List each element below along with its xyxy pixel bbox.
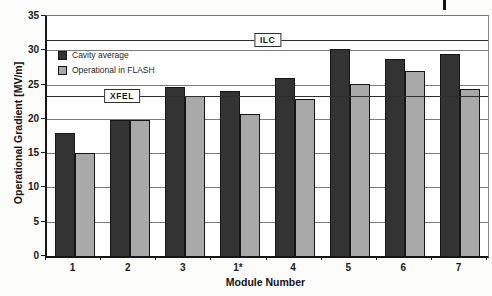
- y-tick-mark-10: [41, 186, 45, 187]
- bar-group-7: [433, 16, 488, 256]
- cavity-average-bar-3: [165, 87, 185, 256]
- operational-in-flash-bar-5: [350, 84, 370, 256]
- x-axis-title: Module Number: [45, 276, 486, 288]
- bar-group-1*: [212, 16, 267, 256]
- x-tick-mark-8: [486, 257, 487, 260]
- y-tick-mark-35: [41, 15, 45, 16]
- legend-item-operational-in-flash: Operational in FLASH: [58, 65, 155, 75]
- legend: Cavity average Operational in FLASH: [58, 50, 155, 75]
- y-tick-label-10: 10: [17, 181, 39, 192]
- x-tick-label-4: 4: [290, 262, 296, 273]
- plot-area: ILCXFEL Cavity average Operational in FL…: [45, 15, 489, 258]
- y-tick-mark-25: [41, 84, 45, 85]
- page-margin-mark: [443, 0, 446, 10]
- cavity-average-bar-6: [385, 59, 405, 256]
- y-tick-label-25: 25: [17, 78, 39, 89]
- cavity-average-bar-1: [55, 133, 75, 256]
- x-tick-label-1*: 1*: [233, 262, 242, 273]
- operational-in-flash-swatch-icon: [58, 66, 67, 75]
- x-tick-label-7: 7: [456, 262, 462, 273]
- x-tick-label-6: 6: [401, 262, 407, 273]
- cavity-average-bar-4: [275, 78, 295, 256]
- operational-in-flash-bar-4: [295, 99, 315, 256]
- x-tick-mark-0: [45, 257, 46, 260]
- y-tick-mark-20: [41, 118, 45, 119]
- operational-in-flash-bar-6: [405, 71, 425, 256]
- y-tick-label-0: 0: [17, 250, 39, 261]
- x-tick-label-3: 3: [180, 262, 186, 273]
- x-tick-mark-1: [100, 257, 101, 260]
- x-tick-label-5: 5: [345, 262, 351, 273]
- legend-label: Operational in FLASH: [72, 65, 155, 75]
- y-tick-mark-30: [41, 49, 45, 50]
- x-tick-label-1: 1: [70, 262, 76, 273]
- y-tick-label-30: 30: [17, 44, 39, 55]
- bar-group-5: [323, 16, 378, 256]
- xfel-label: XFEL: [104, 89, 140, 103]
- operational-in-flash-bar-3: [185, 96, 205, 256]
- y-tick-label-35: 35: [17, 10, 39, 21]
- operational-in-flash-bar-7: [460, 89, 480, 256]
- bar-group-3: [157, 16, 212, 256]
- cavity-average-bar-1*: [220, 91, 240, 256]
- x-tick-mark-6: [376, 257, 377, 260]
- x-tick-mark-4: [266, 257, 267, 260]
- operational-in-flash-bar-1: [75, 153, 95, 256]
- y-axis-title: Operational Gradient [MV/m]: [12, 48, 24, 218]
- legend-label: Cavity average: [72, 50, 129, 60]
- ilc-label: ILC: [254, 33, 281, 47]
- x-tick-label-2: 2: [125, 262, 131, 273]
- bar-group-6: [378, 16, 433, 256]
- x-tick-mark-5: [321, 257, 322, 260]
- y-tick-label-5: 5: [17, 215, 39, 226]
- operational-in-flash-bar-1*: [240, 114, 260, 256]
- legend-item-cavity-average: Cavity average: [58, 50, 155, 60]
- cavity-average-bar-2: [110, 120, 130, 256]
- cavity-average-bar-7: [440, 54, 460, 256]
- cavity-average-bar-5: [330, 49, 350, 256]
- chart-figure: Operational Gradient [MV/m] ILCXFEL Cavi…: [0, 0, 492, 296]
- bar-group-4: [268, 16, 323, 256]
- y-tick-mark-5: [41, 221, 45, 222]
- x-tick-mark-3: [210, 257, 211, 260]
- y-tick-label-15: 15: [17, 147, 39, 158]
- y-tick-label-20: 20: [17, 112, 39, 123]
- y-tick-mark-0: [41, 255, 45, 256]
- x-tick-mark-2: [155, 257, 156, 260]
- y-tick-mark-15: [41, 152, 45, 153]
- operational-in-flash-bar-2: [130, 120, 150, 256]
- x-tick-mark-7: [431, 257, 432, 260]
- cavity-average-swatch-icon: [58, 51, 67, 60]
